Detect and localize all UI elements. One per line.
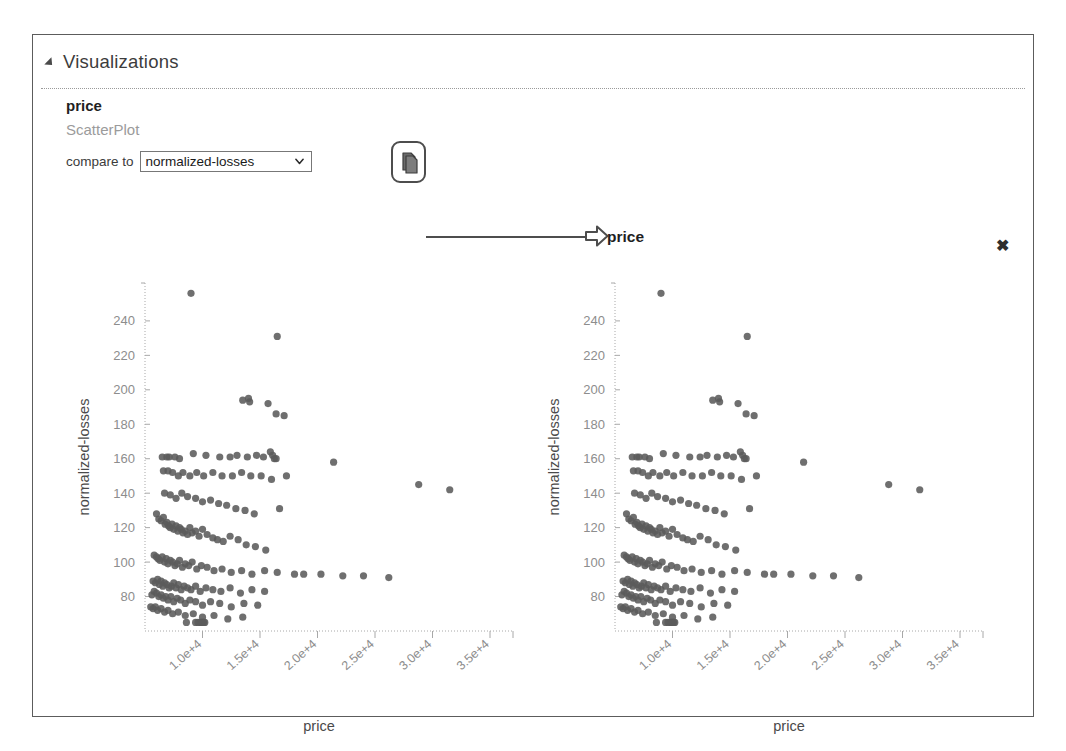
y-tick-label: 240 [583,313,605,328]
arrow-target-label: price [607,228,644,246]
y-tick-label: 120 [583,520,605,535]
x-tick-label: 2.0e+4 [751,637,789,673]
x-tick-label: 3.0e+4 [866,637,904,673]
visualizations-panel: Visualizations price ScatterPlot compare… [32,34,1034,717]
x-axis-title: price [303,718,334,734]
y-tick-label: 140 [113,486,135,501]
x-tick-label: 1.0e+4 [636,637,674,673]
chevron-down-icon [295,157,304,166]
y-axis-title: normalized-losses [546,399,562,516]
y-tick-label: 100 [583,555,605,570]
y-tick-label: 80 [121,589,135,604]
y-tick-label: 180 [113,417,135,432]
x-tick-label: 3.0e+4 [396,637,434,673]
y-tick-label: 200 [113,382,135,397]
connector-line [426,236,588,238]
y-tick-label: 240 [113,313,135,328]
y-tick-label: 160 [583,451,605,466]
x-tick-label: 2.0e+4 [281,637,319,673]
x-tick-label: 1.5e+4 [224,637,262,673]
y-tick-label: 180 [583,417,605,432]
y-tick-label: 220 [113,348,135,363]
copy-icon [401,152,420,176]
y-axis-title: normalized-losses [76,399,92,516]
compare-to-select[interactable]: normalized-losses [140,151,312,172]
data-points [147,290,453,626]
x-axis-title: price [773,718,804,734]
triangle-collapse-icon[interactable] [44,57,55,68]
y-tick-label: 160 [113,451,135,466]
y-tick-label: 200 [583,382,605,397]
x-tick-label: 3.5e+4 [454,637,492,673]
close-icon[interactable]: ✖ [993,237,1011,255]
compare-to-selected-value: normalized-losses [146,154,255,169]
page-title: Visualizations [63,51,179,73]
x-tick-label: 1.0e+4 [166,637,204,673]
y-tick-label: 120 [113,520,135,535]
visualization-subtitle: ScatterPlot [66,121,139,138]
scatter-plot-svg: 801001201401601802002202401.0e+41.5e+42.… [541,269,1001,739]
x-tick-label: 3.5e+4 [924,637,962,673]
scatter-chart-left: 801001201401601802002202401.0e+41.5e+42.… [71,269,531,739]
scatter-chart-right: 801001201401601802002202401.0e+41.5e+42.… [541,269,1001,739]
panel-header[interactable]: Visualizations [33,35,1033,88]
y-tick-label: 80 [591,589,605,604]
copy-button[interactable] [391,141,426,183]
x-tick-label: 2.5e+4 [339,637,377,673]
y-tick-label: 140 [583,486,605,501]
panel-body: price ScatterPlot compare to normalized-… [33,89,1033,716]
y-tick-label: 100 [113,555,135,570]
screenshot-root: Visualizations price ScatterPlot compare… [0,0,1066,751]
data-points [617,290,923,626]
y-tick-label: 220 [583,348,605,363]
x-tick-label: 2.5e+4 [809,637,847,673]
x-tick-label: 1.5e+4 [694,637,732,673]
compare-to-label: compare to [66,154,134,169]
compare-to-row: compare to normalized-losses [66,151,312,172]
visualization-title: price [66,97,102,114]
scatter-plot-svg: 801001201401601802002202401.0e+41.5e+42.… [71,269,531,739]
arrow-right-icon [585,225,609,247]
